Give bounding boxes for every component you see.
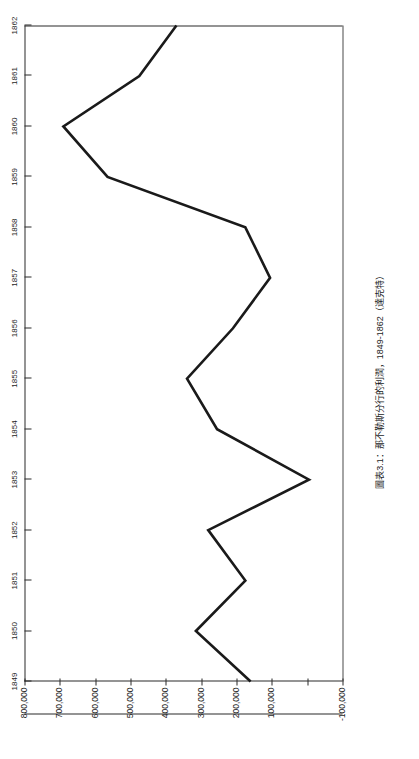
line-chart-figure: -100,000100,000200,000300,000400,000500,… bbox=[0, 0, 419, 759]
chart-page: -100,000100,000200,000300,000400,000500,… bbox=[0, 0, 419, 759]
series-layer bbox=[0, 0, 419, 759]
rotated-figure-wrapper: -100,000100,000200,000300,000400,000500,… bbox=[0, 0, 419, 759]
chart-title: 圖表3.1：那不勒斯分行的利潤，1849-1862（達克特） bbox=[372, 0, 385, 759]
profit-line-series bbox=[63, 25, 309, 681]
